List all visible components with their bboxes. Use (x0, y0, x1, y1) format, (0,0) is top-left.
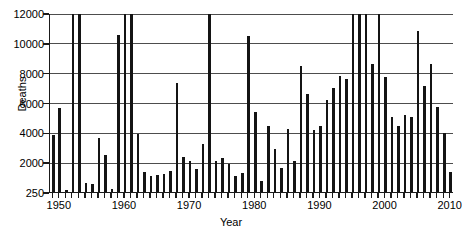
bar (91, 184, 94, 192)
x-axis-year-tick (234, 193, 235, 198)
x-axis-year-tick (312, 193, 313, 198)
x-axis-tick-label: 2000 (372, 199, 396, 212)
bar (124, 14, 127, 192)
x-axis-year-tick (306, 193, 307, 198)
bar (267, 126, 270, 192)
x-axis-year-tick (195, 193, 196, 198)
bar (410, 117, 413, 192)
y-axis-tick-mark (43, 162, 49, 163)
bar (182, 157, 185, 192)
y-axis-tick-label: 12000 (13, 9, 44, 20)
bar (397, 126, 400, 192)
bar (339, 76, 342, 192)
bar (202, 144, 205, 192)
x-axis-year-tick (254, 193, 255, 198)
bar (111, 189, 114, 192)
bar (371, 64, 374, 192)
bar (195, 169, 198, 192)
x-axis-year-tick (201, 193, 202, 198)
bar (365, 14, 368, 192)
x-axis-year-tick (65, 193, 66, 198)
x-axis-year-tick (273, 193, 274, 198)
x-axis-year-tick (162, 193, 163, 198)
y-axis-tick-label: 4000 (20, 128, 44, 139)
bar (274, 149, 277, 192)
y-axis-tick-label: 10000 (13, 38, 44, 49)
bar (449, 172, 452, 192)
x-axis-year-tick (247, 193, 248, 198)
bar (78, 14, 81, 192)
bar (443, 133, 446, 192)
bar (254, 112, 257, 192)
bar (358, 14, 361, 192)
bar (65, 190, 68, 192)
x-axis-year-tick (227, 193, 228, 198)
x-axis-year-tick (416, 193, 417, 198)
x-axis-year-tick (390, 193, 391, 198)
x-axis-year-tick (104, 193, 105, 198)
y-axis-tick-mark (43, 73, 49, 74)
x-axis-year-tick (436, 193, 437, 198)
x-axis-year-tick (169, 193, 170, 198)
x-axis-year-tick (286, 193, 287, 198)
x-axis-year-tick (58, 193, 59, 198)
x-axis-tick-label: 1970 (177, 199, 201, 212)
bar (228, 164, 231, 192)
x-axis-year-tick (345, 193, 346, 198)
plot-area (49, 14, 453, 193)
bar (98, 138, 101, 192)
x-axis-year-tick (384, 193, 385, 198)
x-axis-year-tick (338, 193, 339, 198)
y-axis-tick-label: 2000 (20, 158, 44, 169)
bar (326, 100, 329, 192)
bar (300, 66, 303, 192)
x-axis-year-tick (130, 193, 131, 198)
x-axis-year-tick (52, 193, 53, 198)
bar (306, 94, 309, 192)
x-axis-year-tick (175, 193, 176, 198)
bar (58, 108, 61, 192)
x-axis-tick-label: 2010 (437, 199, 461, 212)
x-axis-title: Year (0, 216, 462, 228)
bar (417, 31, 420, 192)
x-axis-year-tick (221, 193, 222, 198)
bar (137, 134, 140, 192)
bar (247, 36, 250, 192)
x-axis-year-tick (149, 193, 150, 198)
bar (313, 130, 316, 192)
x-axis-year-tick (371, 193, 372, 198)
x-axis-year-tick (188, 193, 189, 198)
x-axis-year-tick (117, 193, 118, 198)
x-axis-year-tick (78, 193, 79, 198)
x-axis-tick-label: 1960 (112, 199, 136, 212)
x-axis-year-tick (429, 193, 430, 198)
x-axis-year-tick (351, 193, 352, 198)
bar (104, 155, 107, 192)
y-axis-tick-mark (43, 103, 49, 104)
bar (319, 126, 322, 192)
bar (163, 174, 166, 192)
bar (293, 161, 296, 192)
x-axis-year-tick (214, 193, 215, 198)
bar (215, 161, 218, 192)
bar (423, 86, 426, 192)
x-axis-tick-label: 1980 (242, 199, 266, 212)
x-axis-tick-label: 1950 (47, 199, 71, 212)
y-axis-tick-label: 6000 (20, 98, 44, 109)
x-axis-tick-labels: 1950196019701980199020002010 (49, 199, 453, 215)
bar (280, 168, 283, 192)
x-axis-year-tick (299, 193, 300, 198)
x-axis-year-tick (84, 193, 85, 198)
bar (345, 79, 348, 192)
x-axis-year-tick (397, 193, 398, 198)
y-axis-tick-mark (43, 43, 49, 44)
bar (384, 77, 387, 192)
bar (169, 171, 172, 192)
x-axis-year-tick (143, 193, 144, 198)
x-axis-year-tick (182, 193, 183, 198)
x-axis-year-tick (267, 193, 268, 198)
bar (72, 14, 75, 192)
bar (241, 173, 244, 192)
x-axis-tick-label: 1990 (307, 199, 331, 212)
bar (404, 115, 407, 192)
